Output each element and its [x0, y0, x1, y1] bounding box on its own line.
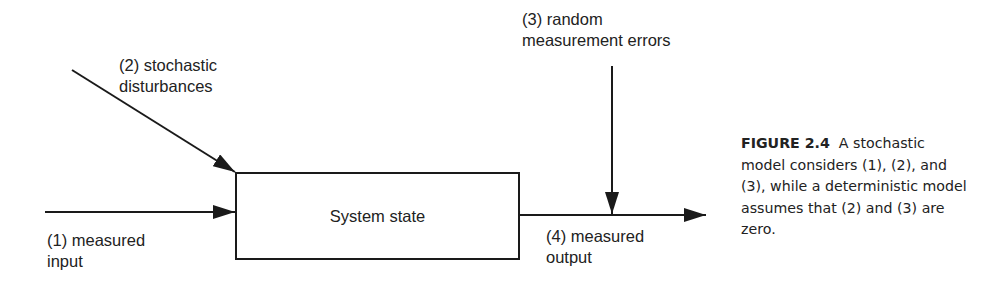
- stochastic-disturbances-label: (2) stochastic disturbances: [119, 55, 217, 97]
- figure-caption: FIGURE 2.4 A stochastic model considers …: [741, 133, 971, 241]
- measured-input-label: (1) measured input: [47, 230, 145, 272]
- measurement-errors-label: (3) random measurement errors: [522, 9, 671, 51]
- system-state-label: System state: [236, 173, 519, 259]
- measured-output-label: (4) measured output: [546, 226, 644, 268]
- figure-number: FIGURE 2.4: [741, 135, 830, 151]
